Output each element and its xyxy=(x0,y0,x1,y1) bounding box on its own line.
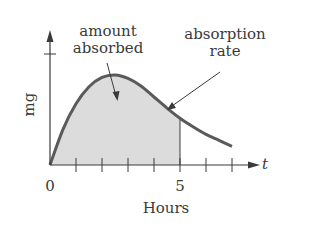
y-axis-arrow-icon xyxy=(47,30,54,42)
amount-label-line1: amount xyxy=(58,23,158,40)
x-axis-arrow-icon xyxy=(248,162,260,169)
rate-arrowhead-icon xyxy=(167,102,176,110)
amount-absorbed-label: amount absorbed xyxy=(58,23,158,57)
rate-label-line2: rate xyxy=(170,43,280,60)
rate-annotation-arrow xyxy=(172,72,220,106)
amount-label-line2: absorbed xyxy=(58,40,158,57)
y-axis-label: mg xyxy=(21,90,38,120)
rate-label-line1: absorption xyxy=(170,26,280,43)
amount-absorbed-area xyxy=(50,75,180,165)
x-tick-label-5: 5 xyxy=(174,178,186,195)
x-tick-label-0: 0 xyxy=(44,178,56,195)
x-axis-title: Hours xyxy=(136,200,196,217)
x-axis-variable-label: t xyxy=(262,156,268,173)
absorption-rate-label: absorption rate xyxy=(170,26,280,60)
